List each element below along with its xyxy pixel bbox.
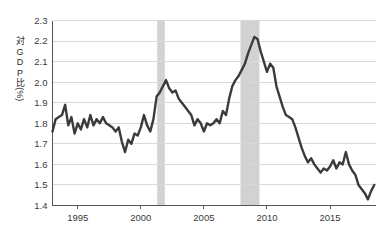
y-tick-label-1.7: 1.7 [34, 138, 47, 149]
x-axis-ticks: 19952000200520102015 [67, 206, 340, 223]
grid-lines [53, 21, 376, 185]
y-tick-label-1.8: 1.8 [34, 118, 47, 129]
y-tick-label-1.6: 1.6 [34, 159, 47, 170]
y-axis-ticks: 1.41.51.61.71.81.92.02.12.22.3 [34, 15, 47, 211]
x-tick-label-2010: 2010 [256, 212, 277, 223]
y-tick-label-1.5: 1.5 [34, 179, 47, 190]
recession-bands [157, 21, 259, 206]
x-tick-label-2000: 2000 [130, 212, 151, 223]
x-tick-label-2015: 2015 [320, 212, 341, 223]
y-tick-label-2.3: 2.3 [34, 15, 47, 26]
x-tick-label-2005: 2005 [193, 212, 214, 223]
x-tick-label-1995: 1995 [67, 212, 88, 223]
y-tick-label-1.4: 1.4 [34, 200, 47, 211]
y-tick-label-2.2: 2.2 [34, 35, 47, 46]
y-tick-label-2.1: 2.1 [34, 56, 47, 67]
y-tick-label-2.0: 2.0 [34, 77, 47, 88]
y-tick-label-1.9: 1.9 [34, 97, 47, 108]
axis-lines [53, 21, 376, 206]
chart-container: 対 G D P 比 (%) 1.41.51.61.71.81.92.02.12.… [0, 0, 388, 238]
chart-plot: 1.41.51.61.71.81.92.02.12.22.3 199520002… [0, 0, 388, 238]
shaded-band-recession-2001 [157, 21, 165, 206]
